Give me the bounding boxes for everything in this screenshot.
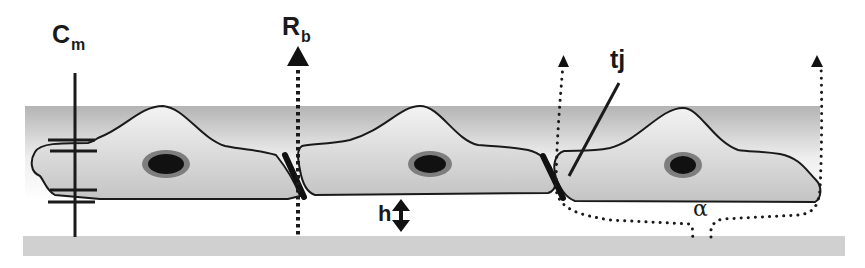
cell-monolayer-diagram	[0, 0, 865, 268]
rb-label: Rb	[282, 14, 311, 39]
nucleus-middle	[408, 151, 452, 177]
arrow-up-icon	[558, 55, 569, 67]
substrate	[23, 236, 845, 256]
rb-label-sub: b	[301, 28, 311, 45]
cm-label-sub: m	[71, 36, 85, 53]
double-arrow-icon	[392, 199, 410, 232]
h-label: h	[378, 203, 391, 225]
cm-label: Cm	[52, 22, 85, 47]
nucleus-left	[142, 150, 190, 178]
tj-label: tj	[610, 47, 625, 72]
arrow-up-icon	[811, 55, 823, 67]
alpha-label: α	[693, 198, 708, 220]
rb-label-main: R	[282, 12, 300, 40]
cm-label-main: C	[52, 20, 70, 48]
nucleus-right	[664, 152, 702, 178]
arrow-up-icon	[287, 46, 309, 66]
